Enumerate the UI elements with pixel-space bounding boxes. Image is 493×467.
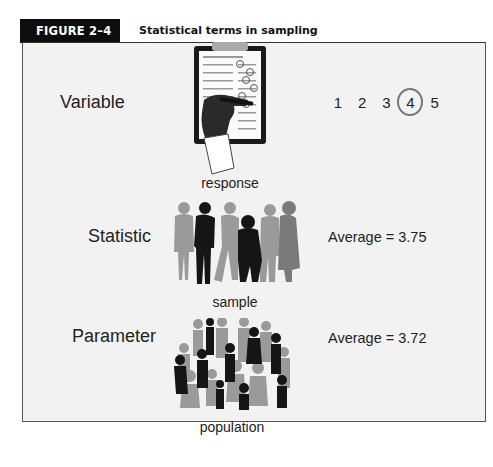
statistic-value: Average = 3.75 <box>328 229 427 245</box>
term-parameter: Parameter <box>72 326 156 347</box>
caption-response: response <box>170 175 290 191</box>
caption-sample: sample <box>175 294 295 310</box>
figure-tag: FIGURE 2–4 <box>20 19 120 43</box>
scale-option: 1 <box>328 94 348 111</box>
scale-option: 3 <box>376 94 396 111</box>
small-group-people-icon <box>170 200 300 285</box>
response-scale: 1 2 3 4 5 <box>328 94 445 111</box>
clipboard-survey-icon <box>190 40 270 175</box>
scale-option: 2 <box>352 94 372 111</box>
parameter-value: Average = 3.72 <box>328 330 427 346</box>
scale-option-selected: 4 <box>401 94 421 111</box>
large-crowd-people-icon <box>172 318 298 410</box>
term-statistic: Statistic <box>88 226 151 247</box>
caption-population: population <box>172 419 292 435</box>
scale-option: 5 <box>425 94 445 111</box>
term-variable: Variable <box>60 92 125 113</box>
